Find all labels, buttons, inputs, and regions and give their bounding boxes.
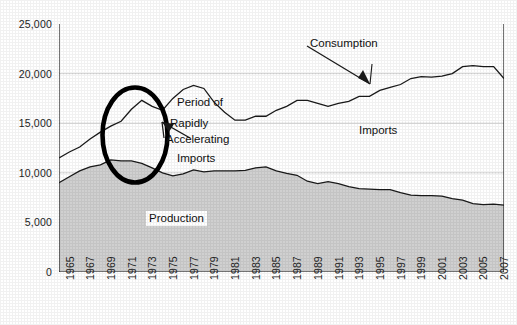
- imports-label: Imports: [359, 124, 397, 137]
- x-axis-label-1985: 1985: [270, 256, 282, 280]
- x-axis-label-1975: 1975: [167, 256, 179, 280]
- x-axis-label-1989: 1989: [312, 256, 324, 280]
- x-axis-label-1981: 1981: [229, 256, 241, 280]
- period-label-line-2: Rapidly: [170, 117, 208, 130]
- x-axis-label-2005: 2005: [477, 256, 489, 280]
- x-axis-label-1965: 1965: [64, 256, 76, 280]
- x-axis-label-1977: 1977: [188, 256, 200, 280]
- x-axis-label-1969: 1969: [105, 256, 117, 280]
- x-axis-label-1995: 1995: [374, 256, 386, 280]
- x-axis-label-1991: 1991: [333, 256, 345, 280]
- y-axis-label-0: 0: [46, 266, 52, 278]
- production-label: Production: [146, 211, 207, 226]
- x-axis-label-1983: 1983: [250, 256, 262, 280]
- x-axis-label-1967: 1967: [84, 256, 96, 280]
- x-axis-label-2003: 2003: [457, 256, 469, 280]
- y-axis-tick-labels: 25,00020,00015,00010,0005,0000: [0, 0, 52, 325]
- period-label-line-3: Accelerating: [166, 133, 229, 146]
- period-label-line-4: Imports: [177, 152, 215, 165]
- x-axis-label-2001: 2001: [436, 256, 448, 280]
- x-axis-label-1987: 1987: [291, 256, 303, 280]
- x-axis-label-1973: 1973: [146, 256, 158, 280]
- y-axis-label-5000: 5,000: [25, 216, 52, 228]
- y-axis-label-25000: 25,000: [19, 18, 52, 30]
- period-label-line-1: Period of: [177, 96, 223, 109]
- x-axis-label-1999: 1999: [415, 256, 427, 280]
- y-axis-label-10000: 10,000: [19, 167, 52, 179]
- x-axis-label-1997: 1997: [395, 256, 407, 280]
- y-axis-label-20000: 20,000: [19, 68, 52, 80]
- y-axis-label-15000: 15,000: [19, 117, 52, 129]
- x-axis-label-1979: 1979: [208, 256, 220, 280]
- x-axis-label-1971: 1971: [126, 256, 138, 280]
- x-axis-label-2007: 2007: [498, 256, 510, 280]
- chart-root: 25,00020,00015,00010,0005,0000 Consumpti…: [0, 0, 517, 325]
- x-axis-label-1993: 1993: [353, 256, 365, 280]
- consumption-label: Consumption: [310, 37, 378, 50]
